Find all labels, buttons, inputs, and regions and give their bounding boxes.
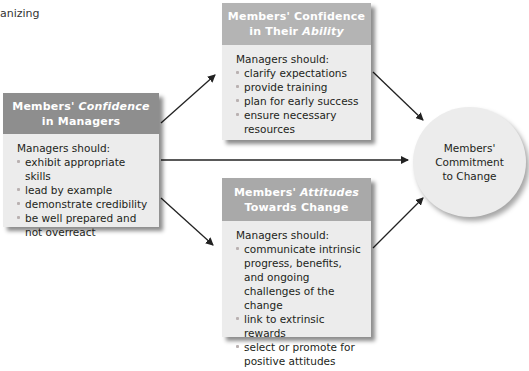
title-line-1: Members' Confidence [222,9,371,24]
title-line-2: Towards Change [222,200,371,215]
managers-list: exhibit appropriate skills lead by examp… [17,155,151,239]
commitment-to-change-circle: Members' Commitment to Change [413,107,526,217]
title-emphasis: Attitudes [300,186,359,199]
list-item: demonstrate credibility [17,197,151,211]
attitudes-list: communicate intrinsic progress, benefits… [236,242,363,368]
managers-box-body: Managers should: exhibit appropriate ski… [3,134,159,245]
arrow-ability-to-commitment [373,72,423,120]
list-item: select or promote for positive attitudes [236,340,363,368]
list-item: plan for early success [236,94,363,108]
attitudes-box-title: Members' Attitudes Towards Change [222,178,371,221]
attitudes-box: Members' Attitudes Towards Change Manage… [222,178,371,337]
list-item: be well prepared and not overreact [17,211,151,239]
title-emphasis: Ability [302,25,344,38]
outcome-line-2: Commitment [435,155,504,169]
intro-text: Managers should: [236,52,363,66]
ability-confidence-box: Members' Confidence in Their Ability Man… [222,3,371,140]
title-line-2: in Their Ability [222,24,371,39]
list-item: lead by example [17,183,151,197]
list-item: communicate intrinsic progress, benefits… [236,242,363,312]
list-item: provide training [236,80,363,94]
intro-text: Managers should: [236,228,363,242]
list-item: ensure necessary resources [236,108,363,136]
title-text: Members' [12,100,78,113]
title-line-1: Members' Confidence [3,99,159,114]
outcome-line-1: Members' [435,141,504,155]
ability-box-body: Managers should: clarify expectations pr… [222,45,371,142]
title-line-1: Members' Attitudes [222,185,371,200]
list-item: clarify expectations [236,66,363,80]
attitudes-box-body: Managers should: communicate intrinsic p… [222,221,371,371]
outcome-line-3: to Change [435,169,504,183]
managers-box-title: Members' Confidence in Managers [3,93,159,134]
ability-list: clarify expectations provide training pl… [236,66,363,136]
title-text: Members' [234,186,300,199]
list-item: link to extrinsic rewards [236,312,363,340]
title-line-2: in Managers [3,114,159,129]
arrow-attitudes-to-commitment [373,198,423,248]
title-text: in Their [249,25,302,38]
outcome-label: Members' Commitment to Change [435,141,504,183]
list-item: exhibit appropriate skills [17,155,151,183]
ability-box-title: Members' Confidence in Their Ability [222,3,371,45]
managers-confidence-box: Members' Confidence in Managers Managers… [3,93,159,227]
intro-text: Managers should: [17,141,151,155]
arrow-managers-to-ability [161,75,215,123]
title-emphasis: Confidence [79,100,150,113]
arrow-managers-to-attitudes [161,198,213,245]
